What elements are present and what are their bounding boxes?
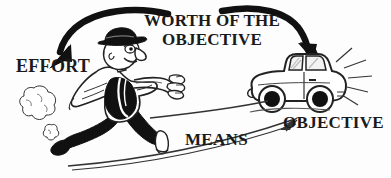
- label-objective: OBJECTIVE: [283, 114, 384, 131]
- title-line-2: OBJECTIVE: [144, 31, 280, 48]
- label-means: MEANS: [185, 131, 248, 148]
- title-line-1: WORTH OF THE: [144, 12, 280, 29]
- title-worth-of-the-objective: WORTH OF THE OBJECTIVE: [144, 12, 280, 48]
- label-effort: EFFORT: [16, 57, 90, 75]
- cartoon-diagram-canvas: EFFORT WORTH OF THE OBJECTIVE MEANS OBJE…: [0, 0, 391, 178]
